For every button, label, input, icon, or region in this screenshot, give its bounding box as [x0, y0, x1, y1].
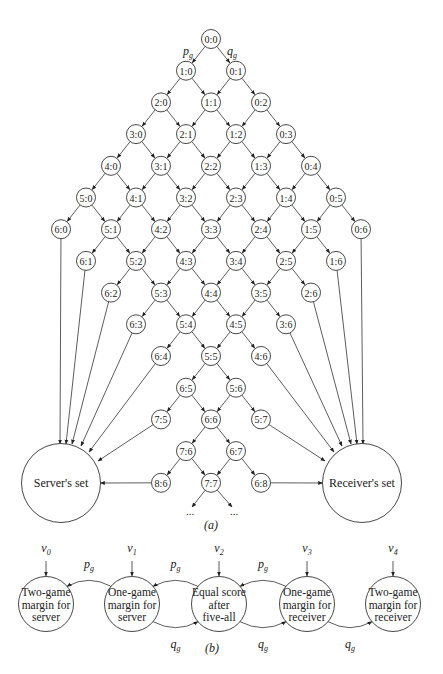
score-node: 6:1 [77, 251, 96, 270]
transition-arrow [217, 363, 230, 379]
transition-arrow [290, 333, 342, 446]
score-label: 2:2 [205, 161, 218, 172]
initial-value-label: v1 [127, 541, 136, 557]
transition-arrow [192, 459, 205, 475]
transition-arrow [142, 205, 155, 221]
transition-prob-label: pg [170, 557, 181, 573]
transition-arrow [192, 78, 205, 94]
transition-arrow [92, 205, 105, 221]
transition-arrow [313, 302, 351, 444]
score-label: 1:3 [255, 161, 268, 172]
score-label: 6:5 [180, 383, 193, 394]
transition-arrow [292, 142, 305, 158]
transition-arrow [117, 142, 130, 158]
score-label: 7:6 [180, 446, 193, 457]
transition-arrow [242, 142, 255, 158]
score-label: 7:7 [205, 478, 218, 489]
transition-arc [153, 622, 198, 628]
score-label: 5:0 [80, 193, 93, 204]
score-node: 2:4 [252, 220, 271, 239]
score-label: 3:6 [280, 319, 293, 330]
transition-arrow [192, 237, 205, 253]
score-label: 3:3 [205, 224, 218, 235]
score-node: 0:2 [252, 93, 271, 112]
state-text: Two-game [21, 586, 70, 599]
state-text: server [118, 611, 146, 623]
score-node: 3:6 [277, 315, 296, 334]
transition-arc [67, 580, 111, 586]
score-node: 6:8 [252, 473, 271, 492]
transition-arrow [192, 205, 205, 221]
state-text: Two-game [368, 586, 417, 599]
transition-arrow [292, 173, 305, 189]
score-node: 5:3 [152, 283, 171, 302]
score-node: 0:5 [327, 188, 346, 207]
transition-arc [240, 622, 286, 628]
transition-arrow [192, 427, 205, 443]
transition-arrow [167, 110, 180, 126]
panel-a-label: (a) [204, 518, 218, 532]
transition-arrow [167, 173, 180, 189]
transition-arrow [292, 268, 305, 284]
score-node: 2:5 [277, 251, 296, 270]
transition-arrow [217, 205, 230, 221]
score-node: 2:6 [302, 283, 321, 302]
transition-arrow [217, 459, 230, 475]
score-node: 1:3 [252, 156, 271, 175]
state-text: receiver [288, 611, 325, 623]
transition-arrow [217, 237, 230, 253]
score-nodes: 0:01:00:12:01:10:23:02:11:20:34:03:12:21… [52, 30, 371, 493]
score-label: 2:5 [280, 256, 293, 267]
transition-arrow [317, 173, 330, 189]
score-label: 2:1 [180, 129, 193, 140]
score-label: 1:0 [180, 66, 193, 77]
state-text: margin for [283, 599, 332, 612]
transition-arrow [269, 425, 325, 461]
initial-value-label: v4 [388, 541, 397, 557]
score-label: 6:1 [80, 256, 93, 267]
score-node: 4:3 [177, 251, 196, 270]
score-node: 1:1 [202, 93, 221, 112]
score-label: 0:4 [305, 161, 318, 172]
score-node: 3:4 [227, 251, 246, 270]
score-node: 6:2 [102, 283, 121, 302]
transition-arrow [192, 363, 205, 379]
transition-arrow [242, 459, 255, 475]
transition-arrow [192, 300, 205, 316]
score-label: 4:3 [180, 256, 193, 267]
score-node: 3:1 [152, 156, 171, 175]
score-node: 5:6 [227, 378, 246, 397]
transition-arrow [267, 173, 280, 189]
score-label: 3:5 [255, 288, 268, 299]
score-label: 1:5 [305, 224, 318, 235]
transition-arrow [242, 237, 255, 253]
score-label: 6:4 [155, 351, 168, 362]
score-label: 6:6 [205, 414, 218, 425]
score-node: 8:6 [152, 473, 171, 492]
score-label: 0:5 [330, 193, 343, 204]
score-node: 6:0 [52, 220, 71, 239]
transition-arrow [342, 205, 355, 221]
score-node: 6:7 [227, 442, 246, 461]
transition-arrow [317, 237, 330, 253]
score-node: 6:6 [202, 410, 221, 429]
panel-a-score-lattice: ...... Server's setReceiver's set 0:01:0… [22, 30, 402, 533]
score-label: 6:0 [55, 224, 68, 235]
score-label: 5:1 [105, 224, 118, 235]
score-label: 4:5 [230, 319, 243, 330]
score-node: 0:1 [227, 61, 246, 80]
score-label: 5:3 [155, 288, 168, 299]
transition-arrow [292, 237, 305, 253]
score-node: 4:4 [202, 283, 221, 302]
score-label: 4:1 [130, 193, 143, 204]
transition-arrow [89, 364, 155, 452]
transition-prob-label: pg [83, 557, 94, 573]
transition-arrow [192, 395, 205, 411]
score-node: 2:1 [177, 125, 196, 144]
state-text: One-game [108, 586, 156, 599]
transition-arrow [317, 205, 330, 221]
transition-prob-label: qg [171, 637, 181, 653]
receiver-wins-point-prob: qg [227, 44, 237, 60]
score-node: 1:4 [277, 188, 296, 207]
transition-prob-label: qg [345, 637, 355, 653]
